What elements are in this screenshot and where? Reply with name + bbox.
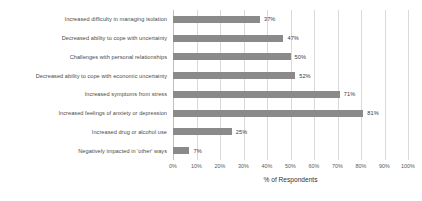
category-label: Increased difficulty in managing isolati… [0, 10, 170, 29]
x-tick-label: 20% [215, 163, 226, 169]
x-tick-label: 100% [401, 163, 415, 169]
x-tick-label: 0% [169, 163, 177, 169]
bar-value-label: 52% [299, 73, 311, 79]
x-axis-title: % of Respondents [173, 176, 408, 183]
bar-rows: 37%47%50%52%71%81%25%7% [173, 10, 408, 160]
bar [173, 147, 189, 154]
bar [173, 16, 260, 23]
category-label-text: Negatively impacted in 'other' ways [78, 148, 167, 154]
bar-value-label: 47% [287, 35, 299, 41]
category-label: Negatively impacted in 'other' ways [0, 141, 170, 160]
bar-value-label: 71% [344, 91, 356, 97]
bar-row: 71% [173, 85, 408, 104]
category-label: Challenges with personal relationships [0, 48, 170, 67]
bar-value-label: 81% [367, 110, 379, 116]
bar [173, 35, 283, 42]
x-axis-ticks: 0%10%20%30%40%50%60%70%80%90%100% [173, 163, 408, 173]
x-tick-label: 10% [191, 163, 202, 169]
category-label-text: Challenges with personal relationships [70, 54, 167, 60]
category-label: Increased drug or alcohol use [0, 123, 170, 142]
bar-row: 47% [173, 29, 408, 48]
gridline [408, 10, 409, 160]
x-tick-label: 90% [379, 163, 390, 169]
category-label-text: Increased feelings of anxiety or depress… [59, 110, 168, 116]
category-axis-labels: Increased difficulty in managing isolati… [0, 10, 170, 160]
x-tick-label: 60% [309, 163, 320, 169]
category-label-text: Increased symptoms from stress [85, 91, 167, 97]
bar-value-label: 50% [295, 54, 307, 60]
plot-area: 37%47%50%52%71%81%25%7% [173, 10, 408, 160]
bar-row: 25% [173, 123, 408, 142]
x-tick-label: 50% [285, 163, 296, 169]
x-tick-label: 30% [238, 163, 249, 169]
category-label: Decreased ability to cope with economic … [0, 66, 170, 85]
x-tick-label: 70% [332, 163, 343, 169]
bar-value-label: 25% [236, 129, 248, 135]
x-tick-label: 40% [262, 163, 273, 169]
bar [173, 128, 232, 135]
category-label: Increased symptoms from stress [0, 85, 170, 104]
bar [173, 53, 291, 60]
category-label: Increased feelings of anxiety or depress… [0, 104, 170, 123]
bar-row: 50% [173, 48, 408, 67]
category-label-text: Increased drug or alcohol use [92, 129, 167, 135]
bar-row: 37% [173, 10, 408, 29]
bar [173, 72, 295, 79]
bar [173, 110, 363, 117]
category-label: Decreased ability to cope with uncertain… [0, 29, 170, 48]
category-label-text: Decreased ability to cope with uncertain… [62, 35, 167, 41]
bar-row: 81% [173, 104, 408, 123]
bar-value-label: 37% [264, 16, 276, 22]
x-tick-label: 80% [356, 163, 367, 169]
bar-chart: Increased difficulty in managing isolati… [0, 0, 422, 201]
bar [173, 91, 340, 98]
category-label-text: Increased difficulty in managing isolati… [65, 16, 167, 22]
bar-row: 52% [173, 66, 408, 85]
bar-value-label: 7% [193, 148, 201, 154]
bar-row: 7% [173, 141, 408, 160]
category-label-text: Decreased ability to cope with economic … [36, 73, 167, 79]
